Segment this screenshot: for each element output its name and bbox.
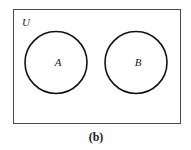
venn-diagram-figure: U A B (b) — [0, 0, 191, 150]
venn-diagram-canvas: U A B (b) — [0, 0, 191, 150]
set-a-label: A — [54, 56, 62, 68]
set-b-label: B — [135, 56, 142, 68]
figure-caption: (b) — [89, 130, 104, 144]
universe-label: U — [22, 16, 31, 28]
